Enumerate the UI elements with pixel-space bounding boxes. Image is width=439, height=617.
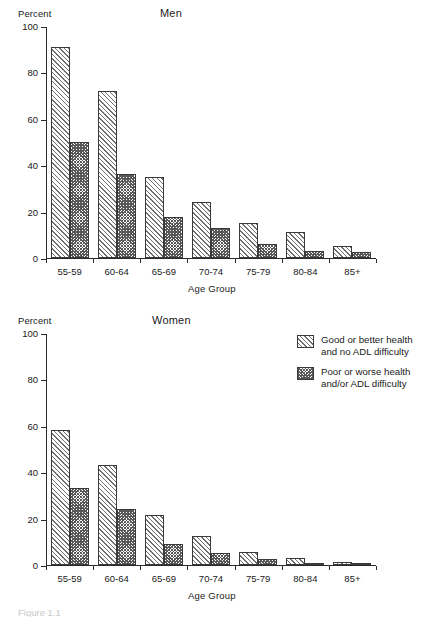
x-axis-tick [329,566,330,570]
x-axis-tick [46,259,47,263]
bar-good-health [192,202,211,258]
x-axis-tick-label: 75-79 [246,266,270,277]
plot-area-men: 020406080100 [46,27,376,259]
y-axis-tick-label: 20 [27,514,38,525]
x-axis-tick [329,259,330,263]
bar-good-health [145,177,164,258]
bar-good-health [51,430,70,565]
y-axis-tick: 60 [41,427,46,428]
bar-group [235,552,282,565]
x-axis-tick [93,566,94,570]
bar-poor-health [164,544,183,565]
x-axis-tick [376,566,377,570]
x-axis-tick-label: 85+ [344,573,360,584]
legend-swatch-cross-hatch [297,367,314,380]
x-axis-tick-label: 55-59 [57,573,81,584]
bar-poor-health [352,252,371,258]
y-axis-tick-label: 40 [27,467,38,478]
x-axis-tick [376,259,377,263]
x-axis-title-men: Age Group [188,283,236,294]
bar-good-health [98,91,117,258]
bar-good-health [239,552,258,565]
x-axis-tick-label: 70-74 [199,573,223,584]
chart-panel-men: Percent Men 020406080100 Age Group 55-59… [0,0,439,300]
x-axis-tick [282,566,283,570]
x-axis-tick [46,566,47,570]
panel-title-men: Men [160,7,182,19]
x-axis-title-women: Age Group [188,590,236,601]
y-axis-tick-label: 60 [27,421,38,432]
y-axis-tick-label: 20 [27,207,38,218]
x-axis-line [46,258,376,259]
x-axis-tick [140,259,141,263]
bar-group [46,430,93,565]
y-axis-tick-label: 60 [27,114,38,125]
x-axis-tick [187,566,188,570]
legend: Good or better health and no ADL difficu… [297,334,439,398]
x-axis-tick-label: 65-69 [152,266,176,277]
bar-poor-health [211,228,230,258]
bar-good-health [333,246,352,258]
x-axis-tick [235,259,236,263]
bar-group [282,558,329,565]
bar-poor-health [164,217,183,258]
bar-group [235,223,282,258]
bar-group [46,47,93,258]
bar-good-health [333,562,352,565]
y-axis-tick-label: 0 [33,560,38,571]
bar-group [329,246,376,258]
y-axis-unit-label: Percent [18,315,51,326]
x-axis-line [46,565,376,566]
x-axis-tick-label: 65-69 [152,573,176,584]
x-axis-tick-label: 80-84 [293,573,317,584]
y-axis-unit-label: Percent [18,8,51,19]
x-axis-tick-label: 85+ [344,266,360,277]
panel-title-women: Women [152,314,191,326]
bar-good-health [145,515,164,565]
x-axis-tick [140,566,141,570]
y-axis-tick-label: 80 [27,374,38,385]
figure-caption: Figure 1.1 [18,609,61,617]
bar-poor-health [70,142,89,258]
y-axis-tick: 80 [41,380,46,381]
bar-poor-health [117,174,136,258]
x-axis-tick-label: 80-84 [293,266,317,277]
bar-poor-health [117,509,136,565]
legend-swatch-diagonal-hatch [297,335,314,348]
bar-good-health [239,223,258,258]
bar-group [93,465,140,565]
x-axis-tick-label: 60-64 [105,573,129,584]
bar-poor-health [305,251,324,258]
bar-poor-health [305,563,324,565]
bar-good-health [286,232,305,258]
y-axis-tick-label: 100 [22,21,38,32]
x-axis-tick [187,259,188,263]
y-axis-tick-label: 100 [22,328,38,339]
x-axis-tick-label: 55-59 [57,266,81,277]
bar-poor-health [258,244,277,258]
bar-group [282,232,329,258]
x-axis-tick [93,259,94,263]
legend-label: Poor or worse health and/or ADL difficul… [321,366,410,389]
bar-group [187,536,234,565]
bar-poor-health [211,553,230,565]
bar-good-health [51,47,70,258]
legend-item: Good or better health and no ADL difficu… [297,334,439,357]
bar-group [140,177,187,258]
legend-label: Good or better health and no ADL difficu… [321,334,413,357]
x-axis-tick-label: 60-64 [105,266,129,277]
caption-strip: Figure 1.1 [0,609,439,617]
y-axis-tick-label: 80 [27,67,38,78]
bar-group [329,562,376,565]
bar-good-health [286,558,305,565]
bar-group [187,202,234,258]
y-axis-tick-label: 0 [33,253,38,264]
y-axis-tick: 100 [41,334,46,335]
y-axis-tick-label: 40 [27,160,38,171]
x-axis-tick-label: 75-79 [246,573,270,584]
bar-poor-health [70,488,89,565]
bar-good-health [192,536,211,565]
bar-good-health [98,465,117,565]
x-axis-tick [282,259,283,263]
x-axis-tick [235,566,236,570]
